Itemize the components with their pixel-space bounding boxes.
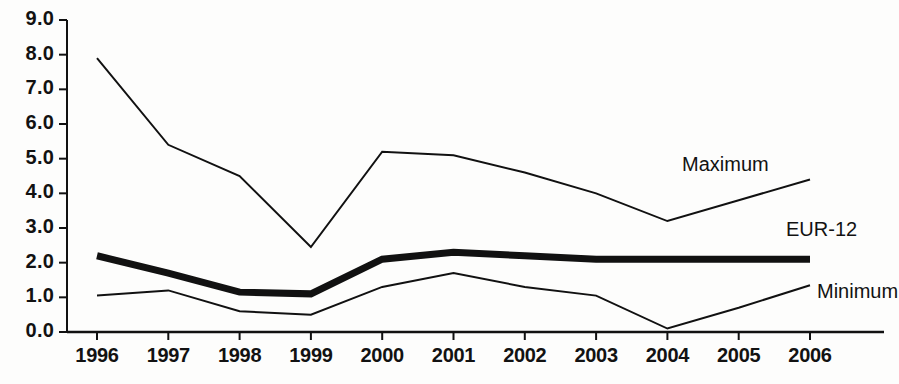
x-tick-label: 2006 bbox=[774, 344, 846, 367]
x-tick-label: 2003 bbox=[560, 344, 632, 367]
line-chart: 0.01.02.03.04.05.06.07.08.09.0 199619971… bbox=[0, 0, 899, 384]
x-tick-label: 1998 bbox=[204, 344, 276, 367]
x-tick-label: 1996 bbox=[61, 344, 133, 367]
y-tick-label: 9.0 bbox=[0, 7, 54, 30]
chart-plot-area bbox=[0, 0, 899, 384]
series-label-minimum: Minimum bbox=[817, 280, 898, 303]
x-tick-label: 1999 bbox=[275, 344, 347, 367]
x-tick-label: 1997 bbox=[132, 344, 204, 367]
y-tick-label: 1.0 bbox=[0, 284, 54, 307]
x-tick-label: 2005 bbox=[703, 344, 775, 367]
x-tick-label: 2000 bbox=[346, 344, 418, 367]
y-tick-label: 3.0 bbox=[0, 215, 54, 238]
y-tick-label: 0.0 bbox=[0, 319, 54, 342]
series-label-eur-12: EUR-12 bbox=[786, 218, 857, 241]
y-tick-label: 7.0 bbox=[0, 76, 54, 99]
x-tick-label: 2002 bbox=[489, 344, 561, 367]
y-tick-label: 6.0 bbox=[0, 111, 54, 134]
y-tick-label: 8.0 bbox=[0, 42, 54, 65]
x-tick-label: 2004 bbox=[631, 344, 703, 367]
series-label-maximum: Maximum bbox=[682, 153, 769, 176]
y-tick-label: 4.0 bbox=[0, 180, 54, 203]
y-tick-label: 2.0 bbox=[0, 250, 54, 273]
y-tick-label: 5.0 bbox=[0, 146, 54, 169]
x-tick-label: 2001 bbox=[418, 344, 490, 367]
chart-axes bbox=[59, 20, 884, 340]
chart-series-lines bbox=[97, 58, 810, 328]
